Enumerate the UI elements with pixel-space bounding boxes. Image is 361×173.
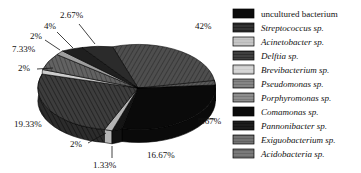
pie-body [38, 44, 216, 143]
pie-chart-svg: 42% 2.67% 4% 2% 7.33% 2% 19.33% 2% 1.33%… [0, 0, 361, 173]
legend-swatch-brevibacterium [233, 65, 254, 74]
pct-label-42: 42% [195, 21, 212, 31]
legend-swatch-acidobacteria [233, 149, 254, 158]
slice-side-pseudomonas [105, 130, 113, 144]
legend-item-porphyromonas[interactable]: Porphyromonas sp. [233, 93, 331, 103]
legend-item-brevibacterium[interactable]: Brevibacterium sp. [233, 65, 329, 75]
pct-label-1-33: 1.33% [93, 160, 117, 170]
legend-label-porphyromonas: Porphyromonas sp. [260, 93, 331, 103]
legend-item-acinetobacter[interactable]: Acinetobacter sp. [233, 37, 324, 47]
legend-label-pannonibacter: Pannonibacter sp. [260, 121, 327, 131]
legend-item-pannonibacter[interactable]: Pannonibacter sp. [233, 121, 327, 131]
pct-label-4: 4% [44, 21, 57, 31]
legend-item-acidobacteria[interactable]: Acidobacteria sp. [233, 149, 325, 159]
pct-label-16-67: 16.67% [147, 150, 175, 160]
chart-legend: uncultured bacterium Streptococcus sp. A… [233, 9, 338, 159]
legend-item-comamonas[interactable]: Comamonas sp. [233, 107, 319, 117]
legend-label-streptococcus: Streptococcus sp. [261, 23, 324, 33]
pct-label-2-top: 2% [30, 31, 43, 41]
pct-label-2-67: 2.67% [60, 10, 84, 20]
pct-label-0-67: 0.67% [198, 116, 222, 126]
legend-label-uncultured-bacterium: uncultured bacterium [261, 9, 338, 19]
legend-swatch-delftia [233, 51, 254, 60]
legend-label-acidobacteria: Acidobacteria sp. [260, 149, 325, 159]
legend-label-delftia: Delftia sp. [260, 51, 299, 61]
legend-swatch-streptococcus [233, 23, 254, 32]
pct-label-19-33: 19.33% [14, 119, 42, 129]
pct-label-7-33: 7.33% [12, 44, 36, 54]
legend-item-streptococcus[interactable]: Streptococcus sp. [233, 23, 324, 33]
legend-swatch-pseudomonas [233, 79, 254, 88]
legend-swatch-exiguobacterium [233, 135, 254, 144]
legend-swatch-pannonibacter [233, 121, 254, 130]
legend-label-pseudomonas: Pseudomonas sp. [260, 79, 324, 89]
legend-item-uncultured-bacterium[interactable]: uncultured bacterium [233, 9, 338, 19]
legend-label-brevibacterium: Brevibacterium sp. [261, 65, 329, 75]
leader-2-67 [79, 24, 95, 44]
legend-label-exiguobacterium: Exiguobacterium sp. [260, 135, 336, 145]
pct-label-2-left: 2% [18, 63, 31, 73]
leader-2-top [45, 40, 60, 50]
pct-label-2-bottom: 2% [70, 139, 83, 149]
legend-item-delftia[interactable]: Delftia sp. [233, 51, 299, 61]
legend-item-exiguobacterium[interactable]: Exiguobacterium sp. [233, 135, 336, 145]
legend-swatch-uncultured-bacterium [233, 9, 254, 18]
leader-4 [57, 32, 73, 48]
legend-swatch-acinetobacter [233, 37, 254, 46]
legend-swatch-comamonas [233, 107, 254, 116]
pie-chart-figure: 42% 2.67% 4% 2% 7.33% 2% 19.33% 2% 1.33%… [0, 0, 361, 173]
legend-label-comamonas: Comamonas sp. [261, 107, 319, 117]
legend-swatch-porphyromonas [233, 93, 254, 102]
pie-top-face [38, 44, 215, 130]
legend-label-acinetobacter: Acinetobacter sp. [260, 37, 324, 47]
legend-item-pseudomonas[interactable]: Pseudomonas sp. [233, 79, 324, 89]
